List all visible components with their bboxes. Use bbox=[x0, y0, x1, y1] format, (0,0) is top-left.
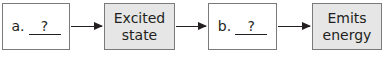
node-emits-line2: energy bbox=[323, 27, 372, 44]
node-a-label: a. bbox=[11, 18, 24, 35]
arrow-excited-to-b bbox=[176, 26, 206, 27]
node-emits-energy: Emits energy bbox=[312, 3, 382, 50]
node-excited-line1: Excited bbox=[114, 10, 165, 27]
node-excited-state: Excited state bbox=[104, 3, 175, 50]
node-a: a. ? bbox=[2, 3, 70, 50]
node-b-label: b. bbox=[218, 18, 231, 35]
node-b-blank: ? bbox=[235, 19, 267, 35]
node-excited-line2: state bbox=[114, 27, 165, 44]
arrow-a-to-excited bbox=[71, 26, 102, 27]
node-a-blank: ? bbox=[29, 19, 61, 35]
arrow-b-to-emits bbox=[278, 26, 310, 27]
node-b: b. ? bbox=[208, 3, 277, 50]
node-emits-line1: Emits bbox=[323, 10, 372, 27]
